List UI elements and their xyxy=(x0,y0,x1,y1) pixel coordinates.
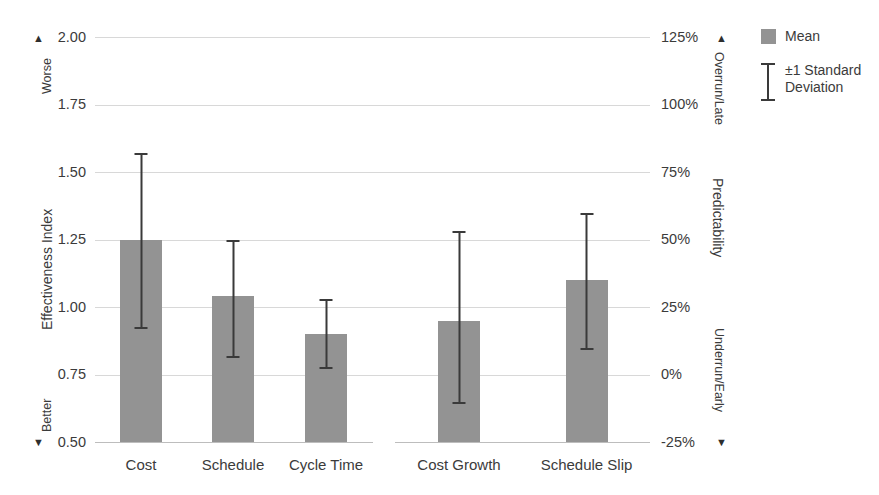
errorbar-cap-bottom xyxy=(227,356,240,358)
left-axis-title: Effectiveness Index xyxy=(40,209,54,330)
effectiveness-predictability-chart: 2.00 1.75 1.50 1.25 1.00 0.75 0.50 ▲ Wor… xyxy=(0,0,879,495)
errorbar-stem xyxy=(458,231,460,404)
errorbar-cap-top xyxy=(761,63,775,65)
panel-effectiveness-index xyxy=(95,37,373,442)
legend-label-mean: Mean xyxy=(785,28,820,46)
left-axis-better-label: Better xyxy=(41,399,54,432)
legend: Mean ±1 Standard Deviation xyxy=(761,28,879,117)
bar-group-cost-growth xyxy=(395,37,523,442)
gridline-gap-1-50 xyxy=(373,172,395,173)
right-axis-title: Predictability xyxy=(711,178,725,257)
errorbar-schedule xyxy=(227,240,240,359)
errorbar-cycle-time xyxy=(320,299,333,369)
errorbar-cost xyxy=(135,153,148,329)
errorbar-cap-top xyxy=(453,231,466,233)
errorbar-cap-top xyxy=(227,240,240,242)
errorbar-stem xyxy=(586,213,588,351)
right-tick-100: 100% xyxy=(661,97,698,112)
mean-swatch-icon xyxy=(761,29,776,44)
right-tick-0: 0% xyxy=(661,367,682,382)
left-tick-2-00: 2.00 xyxy=(58,30,86,45)
right-axis-underrun-early-label: Underrun/Early xyxy=(713,328,726,412)
bar-group-cost xyxy=(95,37,187,442)
right-axis-down-arrow-icon: ▼ xyxy=(716,437,727,448)
left-axis-up-arrow-icon: ▲ xyxy=(33,33,44,44)
right-tick-125: 125% xyxy=(661,30,698,45)
category-label-schedule-slip: Schedule Slip xyxy=(523,457,650,472)
right-tick-75: 75% xyxy=(661,165,690,180)
legend-label-std-line2: Deviation xyxy=(785,79,861,97)
category-label-cycle-time: Cycle Time xyxy=(279,457,373,472)
right-axis-overrun-late-label: Overrun/Late xyxy=(713,52,726,125)
right-axis-up-arrow-icon: ▲ xyxy=(716,33,727,44)
panel-predictability xyxy=(395,37,650,442)
errorbar-stem xyxy=(325,299,327,369)
left-axis-down-arrow-icon: ▼ xyxy=(33,437,44,448)
left-tick-1-25: 1.25 xyxy=(58,232,86,247)
errorbar-cap-bottom xyxy=(761,99,775,101)
legend-label-std-deviation: ±1 Standard Deviation xyxy=(785,62,861,97)
errorbar-cap-bottom xyxy=(580,348,593,350)
category-label-cost-growth: Cost Growth xyxy=(395,457,523,472)
right-tick-25: 25% xyxy=(661,300,690,315)
errorbar-cost-growth xyxy=(453,231,466,404)
left-axis-worse-label: Worse xyxy=(41,58,54,94)
errorbar-cap-top xyxy=(135,153,148,155)
left-tick-0-50: 0.50 xyxy=(58,435,86,450)
bar-group-schedule-slip xyxy=(523,37,650,442)
errorbar-stem xyxy=(140,153,142,329)
errorbar-stem xyxy=(232,240,234,359)
gridline-gap-1-25 xyxy=(373,240,395,241)
category-label-schedule: Schedule xyxy=(187,457,279,472)
left-tick-1-75: 1.75 xyxy=(58,97,86,112)
gridline-baseline-neg25pct xyxy=(395,442,650,443)
legend-item-std-deviation: ±1 Standard Deviation xyxy=(761,62,879,101)
category-label-cost: Cost xyxy=(95,457,187,472)
error-bar-icon xyxy=(761,63,776,101)
bar-group-schedule xyxy=(187,37,279,442)
gridline-gap-0-75 xyxy=(373,375,395,376)
plot-area xyxy=(95,37,650,442)
gridline-gap-1-75 xyxy=(373,105,395,106)
errorbar-cap-bottom xyxy=(135,327,148,329)
left-tick-1-00: 1.00 xyxy=(58,300,86,315)
gridline-baseline-0-50 xyxy=(95,442,373,443)
right-tick-neg25: -25% xyxy=(661,435,695,450)
errorbar-cap-bottom xyxy=(453,402,466,404)
errorbar-cap-bottom xyxy=(320,367,333,369)
gridline-gap-1-00 xyxy=(373,307,395,308)
legend-label-std-line1: ±1 Standard xyxy=(785,62,861,80)
gridline-gap-2-00 xyxy=(373,37,395,38)
errorbar-stem xyxy=(767,63,769,101)
errorbar-schedule-slip xyxy=(580,213,593,351)
legend-item-mean: Mean xyxy=(761,28,879,46)
left-tick-1-50: 1.50 xyxy=(58,165,86,180)
left-tick-0-75: 0.75 xyxy=(58,367,86,382)
errorbar-cap-top xyxy=(580,213,593,215)
right-tick-50: 50% xyxy=(661,232,690,247)
bar-group-cycle-time xyxy=(279,37,373,442)
errorbar-cap-top xyxy=(320,299,333,301)
